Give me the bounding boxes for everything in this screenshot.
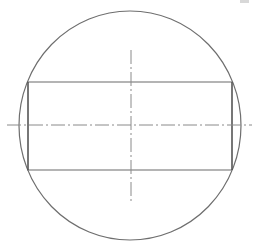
technical-drawing <box>0 0 256 241</box>
cropped-mark <box>240 0 249 3</box>
